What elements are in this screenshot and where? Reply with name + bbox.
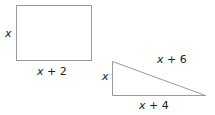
rectangle-height-label: x (4, 27, 12, 40)
triangle-hypotenuse-label: x + 6 (156, 53, 187, 66)
triangle-base-label: x + 4 (138, 99, 169, 112)
rectangle-width-label: x + 2 (36, 65, 67, 78)
diagram-canvas: x x + 2 x x + 4 x + 6 (0, 0, 215, 115)
triangle-hyp-rest: + 6 (164, 53, 187, 66)
rectangle-shape (17, 6, 92, 61)
triangle-height-label: x (101, 70, 109, 83)
triangle-base-rest: + 4 (146, 99, 169, 112)
right-triangle-shape (113, 62, 206, 96)
rectangle-width-rest: + 2 (44, 65, 67, 78)
